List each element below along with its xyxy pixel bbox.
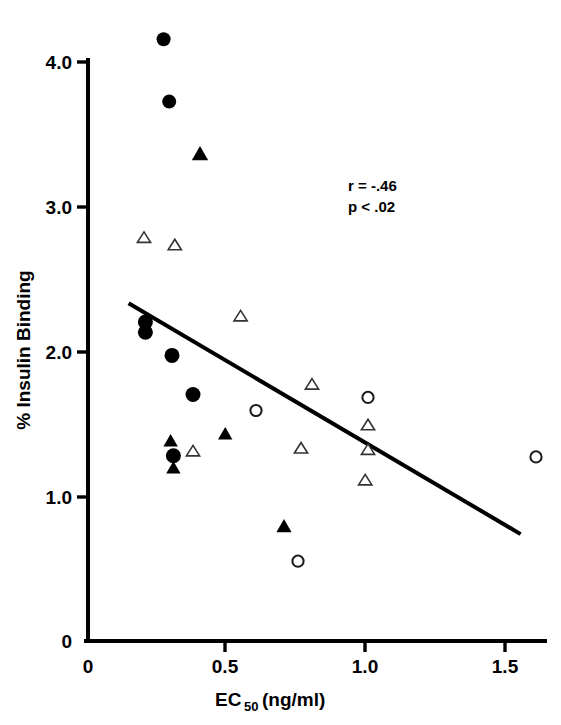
- x-tick-label-0: 0: [83, 656, 94, 677]
- data-point: [362, 392, 373, 403]
- data-point: [163, 434, 177, 447]
- x-axis-title-main: EC: [215, 689, 242, 710]
- annotation-group: r = -.46 p < .02: [348, 177, 397, 215]
- data-point: [162, 95, 176, 109]
- data-point: [186, 387, 201, 402]
- data-point: [234, 310, 247, 321]
- y-tick-label-1: 1.0: [46, 487, 72, 508]
- data-point: [276, 519, 291, 532]
- y-axis-tick-labels: 4.0 3.0 2.0 1.0 0: [46, 52, 72, 652]
- data-point: [137, 232, 150, 243]
- y-tick-label-0: 0: [61, 631, 72, 652]
- y-tick-label-3: 3.0: [46, 197, 72, 218]
- regression-trendline: [129, 303, 521, 534]
- x-tick-label-05: 0.5: [212, 656, 239, 677]
- x-axis-tick-labels: 0 0.5 1.0 1.5: [83, 656, 519, 677]
- plot-canvas: 4.0 3.0 2.0 1.0 0 0 0.5 1.0 1.5 EC 50 (n…: [0, 0, 561, 725]
- scatter-plot-figure: 4.0 3.0 2.0 1.0 0 0 0.5 1.0 1.5 EC 50 (n…: [0, 0, 561, 725]
- x-axis-title-subscript: 50: [244, 699, 258, 714]
- series-filled-triangle: [163, 146, 291, 532]
- data-point: [305, 379, 318, 390]
- axes-group: [86, 60, 545, 641]
- data-point: [294, 443, 307, 454]
- data-point: [165, 348, 180, 363]
- data-point: [218, 427, 232, 440]
- data-point: [138, 325, 153, 340]
- y-axis-title: % Insulin Binding: [13, 270, 34, 429]
- y-tick-label-2: 2.0: [46, 342, 72, 363]
- x-axis-title: EC 50 (ng/ml): [215, 689, 325, 714]
- data-point: [292, 556, 303, 567]
- x-tick-label-15: 1.5: [492, 656, 519, 677]
- data-point: [359, 474, 372, 485]
- series-open-circle: [250, 392, 541, 567]
- data-point: [157, 32, 171, 46]
- x-axis-title-units: (ng/ml): [262, 689, 325, 710]
- data-point: [166, 461, 180, 474]
- data-point: [361, 419, 374, 430]
- x-tick-label-10: 1.0: [352, 656, 378, 677]
- data-point: [186, 445, 199, 456]
- data-point: [192, 146, 208, 160]
- y-tick-label-4: 4.0: [46, 52, 72, 73]
- annotation-p-value: p < .02: [348, 198, 395, 215]
- data-point: [530, 451, 541, 462]
- annotation-r-value: r = -.46: [348, 177, 397, 194]
- data-point: [168, 239, 181, 250]
- data-point: [250, 405, 261, 416]
